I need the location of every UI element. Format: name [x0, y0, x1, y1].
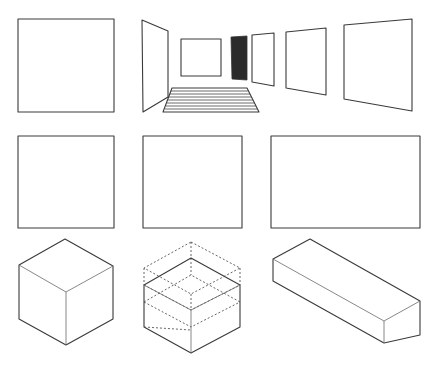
perspective-room — [142, 19, 412, 112]
right-panel-2 — [286, 28, 326, 95]
drawing-canvas — [0, 0, 442, 381]
left-wall-panel — [142, 20, 168, 112]
dashed-construction-cube — [144, 242, 240, 353]
square-2 — [18, 136, 114, 228]
isometric-box — [273, 239, 420, 343]
right-panel-3 — [344, 19, 412, 111]
dark-panel — [231, 36, 247, 80]
rectangle-wide — [271, 136, 420, 228]
diagram-svg — [0, 0, 442, 381]
back-square — [181, 39, 221, 76]
square-3 — [143, 136, 242, 228]
right-panel-1 — [252, 33, 274, 86]
square-1 — [18, 19, 114, 112]
striped-floor — [163, 88, 259, 112]
isometric-cube — [19, 239, 113, 345]
